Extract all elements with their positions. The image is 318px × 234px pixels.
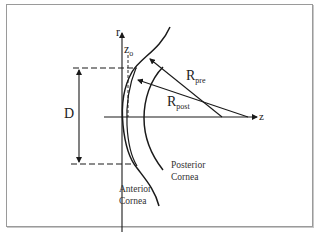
z0-sub: o xyxy=(129,49,133,58)
r-post-main: R xyxy=(167,94,176,109)
d-label: D xyxy=(64,107,74,121)
anterior-line-2: Cornea xyxy=(119,195,151,207)
posterior-line-2: Cornea xyxy=(171,171,205,183)
posterior-cornea-label: Posterior Cornea xyxy=(171,159,205,183)
r-pre-sub: pre xyxy=(195,76,205,85)
r-pre-main: R xyxy=(186,68,195,83)
r-pre-label: Rpre xyxy=(186,69,206,85)
r-post-label: Rpost xyxy=(167,95,190,111)
r-axis-label: r xyxy=(116,26,120,38)
cornea-diagram xyxy=(0,0,318,234)
r-post-sub: post xyxy=(176,102,189,111)
posterior-line-1: Posterior xyxy=(171,159,205,171)
anterior-cornea-label: Anterior Cornea xyxy=(119,183,151,207)
anterior-line-1: Anterior xyxy=(119,183,151,195)
r-post-radius-line xyxy=(138,80,248,117)
z-axis-label: z xyxy=(259,111,264,122)
z0-label: zo xyxy=(124,43,133,58)
